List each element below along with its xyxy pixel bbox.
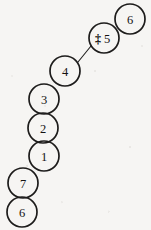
node-label: 6	[19, 206, 25, 220]
node-layer: 65‡432176	[7, 4, 145, 227]
node-label: 4	[62, 65, 69, 79]
node-label: 5	[104, 32, 110, 46]
graph-node[interactable]: 6	[7, 197, 37, 227]
node-label: 7	[20, 177, 26, 191]
graph-node[interactable]: 1	[29, 141, 59, 171]
graph-node[interactable]: 3	[29, 84, 59, 114]
node-annotation-mark: ‡	[95, 32, 101, 46]
graph-node[interactable]: 2	[28, 113, 58, 143]
graph-node[interactable]: 4	[50, 56, 80, 86]
node-label: 3	[41, 93, 47, 107]
diagram-canvas: 65‡432176	[0, 0, 151, 230]
edge-layer	[78, 46, 91, 62]
graph-node[interactable]: 7	[8, 168, 38, 198]
node-label: 2	[40, 122, 46, 136]
node-label: 1	[41, 150, 47, 164]
graph-edge	[78, 46, 91, 62]
node-label: 6	[127, 13, 133, 27]
graph-node[interactable]: 6	[115, 4, 145, 34]
graph-node[interactable]: 5‡	[89, 23, 119, 53]
node-chain-graph: 65‡432176	[0, 0, 151, 230]
